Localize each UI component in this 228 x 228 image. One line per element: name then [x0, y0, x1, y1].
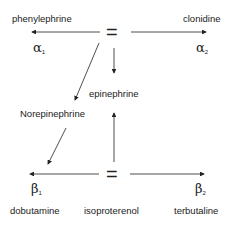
arrow-norepinephrine-to-beta1 [48, 128, 66, 164]
label-epinephrine: epinephrine [89, 89, 139, 99]
receptor-alpha2: α2 [196, 41, 208, 55]
label-norepinephrine: Norepinephrine [20, 109, 85, 119]
receptor-beta1: β1 [31, 182, 42, 196]
label-clonidine: clonidine [183, 14, 221, 24]
label-dobutamine: dobutamine [10, 206, 60, 216]
equals-top: = [106, 22, 118, 42]
label-phenylephrine: phenylephrine [12, 14, 72, 24]
label-terbutaline: terbutaline [174, 206, 218, 216]
receptor-alpha1: α1 [33, 41, 45, 55]
label-isoproterenol: isoproterenol [84, 206, 139, 216]
receptor-beta2: β2 [195, 182, 206, 196]
equals-bottom: = [106, 164, 118, 184]
